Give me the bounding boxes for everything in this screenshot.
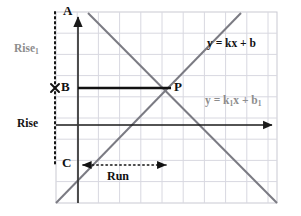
point-label-a: A (63, 4, 72, 17)
annotation-rise1-sub: 1 (35, 47, 39, 56)
point-label-b: B (61, 80, 70, 93)
geometry-figure-svg (0, 0, 301, 216)
equation-secondary-mid: x + b (233, 94, 257, 106)
equation-secondary-sub2: 1 (258, 99, 262, 108)
annotation-rise1-text: Rise (14, 42, 35, 54)
point-label-p: P (174, 80, 182, 93)
equation-label-secondary: y = k1x + b1 (205, 95, 262, 107)
annotation-rise1: Rise1 (14, 43, 39, 55)
annotation-rise: Rise (17, 118, 38, 130)
equation-secondary-prefix: y = k (205, 94, 229, 106)
annotation-run: Run (107, 170, 129, 182)
equation-label-primary: y = kx + b (207, 38, 256, 50)
figure-canvas: A B C P y = kx + b y = k1x + b1 Rise1 Ri… (0, 0, 301, 216)
point-label-c: C (62, 156, 71, 169)
